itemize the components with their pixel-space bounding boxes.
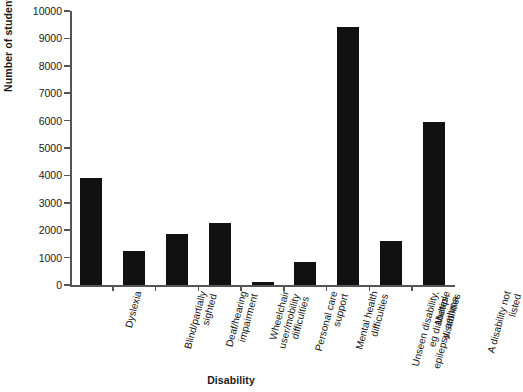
x-axis-category-label: Dyslexia (124, 290, 144, 329)
x-axis-line (70, 285, 455, 287)
y-axis-tick-label: 0 (18, 280, 62, 291)
x-axis-category-label-line: Dyslexia (124, 290, 144, 329)
x-axis-category-label: Wheelchairuser/mobilitydifficulties (266, 290, 311, 352)
y-axis-tick (64, 38, 70, 40)
bar (252, 282, 274, 285)
x-axis-category-labels: DyslexiaBlind/partiallysightedDeaf/heari… (70, 290, 455, 368)
x-axis-category-label: Deaf/hearingimpairment (224, 290, 259, 351)
y-axis-tick (64, 202, 70, 204)
y-axis-tick-label: 7000 (18, 88, 62, 99)
y-axis-tick-label: 2000 (18, 225, 62, 236)
y-axis-tick (64, 65, 70, 67)
x-axis-category-label: Personal caresupport (313, 290, 349, 355)
y-axis-tick-label: 8000 (18, 61, 62, 72)
y-axis-tick (64, 284, 70, 286)
y-axis-tick-label: 6000 (18, 115, 62, 126)
x-axis-category-label: A disability notlisted (486, 290, 523, 357)
y-axis-tick (64, 229, 70, 231)
x-axis-title: Disability (0, 374, 462, 386)
y-axis-tick-label: 5000 (18, 143, 62, 154)
y-axis-tick (64, 175, 70, 177)
bar (337, 27, 359, 285)
bars-layer (70, 11, 455, 285)
plot-area: 0100020003000400050006000700080009000100… (70, 11, 455, 285)
bar (166, 234, 188, 285)
y-axis-tick (64, 92, 70, 94)
y-axis-tick-label: 9000 (18, 33, 62, 44)
y-axis-tick (64, 120, 70, 122)
bar (80, 178, 102, 285)
bar (294, 262, 316, 285)
bar (209, 223, 231, 285)
y-axis-tick-label: 10000 (18, 6, 62, 17)
bar (380, 241, 402, 285)
x-axis-category-label: Blind/partiallysighted (183, 290, 219, 353)
y-axis-title: Number of students (2, 0, 14, 92)
y-axis-tick (64, 257, 70, 259)
x-axis-category-label: Mental healthdifficulties (355, 290, 391, 353)
bar (423, 122, 445, 285)
y-axis-tick-label: 1000 (18, 252, 62, 263)
y-axis-tick-label: 3000 (18, 198, 62, 209)
y-axis-tick (64, 147, 70, 149)
y-axis-title-wrapper: Number of students (0, 0, 20, 300)
y-axis-tick-label: 4000 (18, 170, 62, 181)
y-axis-tick (64, 10, 70, 12)
bar (123, 251, 145, 285)
